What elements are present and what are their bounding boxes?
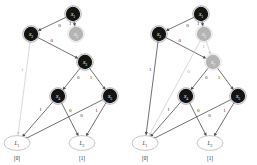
bdd-edge-label: 1 [167, 107, 170, 112]
bdd-panel-left: 0101011001x1x2x2x3x4x5L1[0]L2[1] [4, 6, 118, 162]
bdd-figure-canvas: 0101011001x1x2x2x3x4x5L1[0]L2[1]01010101… [0, 0, 257, 165]
bdd-edge-x5-to-L1 [24, 99, 103, 139]
bdd-edge-label: 1 [39, 107, 42, 112]
bdd-edge-x4-to-L1 [150, 102, 181, 137]
bdd-edge-label: 1 [90, 75, 93, 80]
bdd-edge-label: 0 [69, 108, 72, 113]
bdd-edge-label: 0 [208, 113, 211, 118]
bdd-panel-right: 010101011001x1x2x2x3x4x5L1[0]L2[1] [132, 6, 246, 162]
bdd-edge-label: 0 [186, 23, 189, 28]
bdd-terminal-caption: [0] [14, 155, 20, 162]
bdd-edge-label: 0 [77, 75, 80, 80]
bdd-edge-x2-to-L1 [18, 42, 30, 136]
bdd-edge-label: 1 [202, 44, 205, 49]
bdd-edge-x2-to-L1 [146, 42, 158, 136]
bdd-edge-label: 0 [58, 23, 61, 28]
bdd-terminal-caption: [0] [142, 155, 148, 162]
bdd-terminal-caption: [1] [207, 155, 213, 162]
figure-root: 0101011001x1x2x2x3x4x5L1[0]L2[1]01010101… [0, 0, 257, 165]
bdd-terminal-caption: [1] [79, 155, 85, 162]
bdd-edge-label: 0 [51, 38, 54, 43]
bdd-edge-label: 1 [149, 67, 152, 72]
bdd-edge-label: 1 [95, 108, 98, 113]
bdd-edge-x1-to-x2 [166, 17, 194, 30]
bdd-edge-x1-to-x2 [38, 17, 66, 30]
bdd-edge-label: 1 [218, 75, 221, 80]
bdd-edge-label: 0 [197, 108, 200, 113]
bdd-edge-label: 0 [80, 113, 83, 118]
bdd-edge-label: 0 [205, 75, 208, 80]
bdd-edge-x4-to-L1 [22, 102, 53, 137]
bdd-edge-label: 0 [179, 38, 182, 43]
bdd-edge-x5-to-L1 [152, 99, 231, 139]
bdd-edge-label: 1 [21, 67, 24, 72]
bdd-edge-label: 1 [223, 108, 226, 113]
bdd-edge-label: 0 [187, 69, 190, 74]
bdd-edge-x2-to-x3 [38, 37, 78, 58]
